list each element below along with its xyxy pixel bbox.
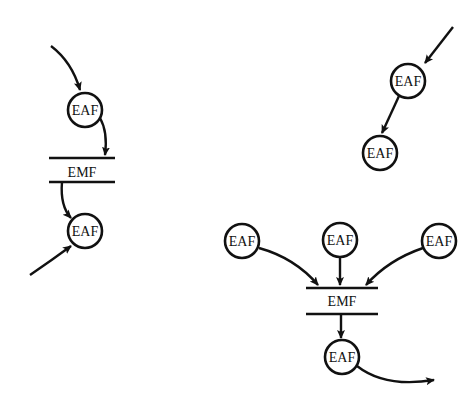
eaf-to-emf-arrow: [366, 248, 423, 285]
eaf-label: EAF: [395, 74, 422, 89]
eaf-label: EAF: [367, 146, 394, 161]
eaf-label: EAF: [229, 234, 256, 249]
eaf-node: EAF: [323, 223, 357, 257]
top-right-chain: EAF EAF: [363, 27, 453, 170]
bottom-right-merge: EAF EAF EAF EMF EAF: [225, 223, 456, 382]
eaf-label: EAF: [329, 350, 356, 365]
eaf-to-eaf-arrow: [382, 96, 399, 133]
emf-node: EMF: [49, 158, 115, 182]
eaf-node: EAF: [325, 340, 359, 374]
eaf-label: EAF: [327, 233, 354, 248]
eaf-node: EAF: [363, 136, 397, 170]
eaf-node: EAF: [68, 93, 102, 127]
emf-node: EMF: [306, 288, 378, 314]
eaf-to-emf-arrow: [100, 118, 106, 155]
emf-label: EMF: [328, 294, 357, 309]
outgoing-arrow: [357, 366, 434, 382]
eaf-node: EAF: [391, 64, 425, 98]
incoming-arrow: [51, 46, 80, 90]
emf-label: EMF: [68, 165, 97, 180]
diagram-canvas: EAF EMF EAF EAF EAF EAF: [0, 0, 474, 409]
eaf-node: EAF: [225, 224, 259, 258]
incoming-arrow: [30, 246, 71, 275]
eaf-label: EAF: [426, 234, 453, 249]
left-chain: EAF EMF EAF: [30, 46, 115, 275]
eaf-node: EAF: [68, 214, 102, 248]
incoming-arrow: [425, 27, 453, 63]
emf-to-eaf-arrow: [62, 182, 71, 218]
eaf-node: EAF: [422, 224, 456, 258]
eaf-label: EAF: [72, 103, 99, 118]
eaf-to-emf-arrow: [259, 248, 318, 285]
eaf-label: EAF: [72, 224, 99, 239]
